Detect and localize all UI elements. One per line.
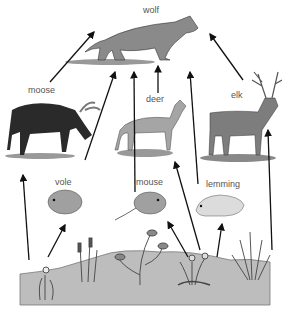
label-elk: elk [231,91,243,100]
diagram-canvas [0,0,282,316]
arrow-plants-to-lemming [217,224,222,257]
label-moose: moose [28,86,55,95]
label-wolf: wolf [143,6,159,15]
label-lemming: lemming [206,180,240,189]
arrow-mouse-to-wolf [134,72,135,192]
label-vole: vole [55,178,72,187]
arrow-plants-to-deer [175,162,200,250]
mouse-illustration [115,192,166,220]
wolf-illustration [65,16,198,65]
arrow-elk-to-wolf [210,34,243,80]
lemming-illustration [196,195,244,216]
arrow-lemming-to-wolf [190,72,198,184]
arrow-moose-to-wolf [50,32,94,82]
food-web-diagram: wolf moose deer elk vole mouse lemming [0,0,282,316]
label-mouse: mouse [136,178,163,187]
arrows [23,32,272,260]
elk-illustration [200,72,282,162]
arrow-plants-to-vole [48,225,65,257]
vole-illustration [48,190,82,214]
moose-illustration [5,102,100,159]
label-deer: deer [146,95,164,104]
arrow-plants-to-moose [23,175,29,260]
arrow-vole-to-wolf [85,72,115,160]
ground-soil [20,251,270,305]
deer-illustration [115,100,186,157]
arrow-plants-to-elk [268,130,272,250]
